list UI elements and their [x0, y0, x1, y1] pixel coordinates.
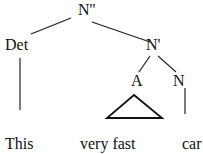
triangle-adj-phrase [107, 95, 162, 118]
word-very-fast: very fast [80, 136, 136, 152]
word-this: This [5, 136, 33, 152]
node-noun: N [173, 73, 185, 89]
edge-nbar-adj [139, 56, 150, 72]
edge-root-nbar [92, 22, 150, 42]
node-det: Det [5, 37, 28, 53]
word-car: car [182, 136, 202, 152]
node-nbar: N' [146, 37, 160, 53]
node-root: N'' [78, 2, 95, 18]
edge-nbar-noun [158, 56, 176, 72]
node-adj: A [131, 73, 143, 89]
edge-root-det [31, 18, 71, 34]
